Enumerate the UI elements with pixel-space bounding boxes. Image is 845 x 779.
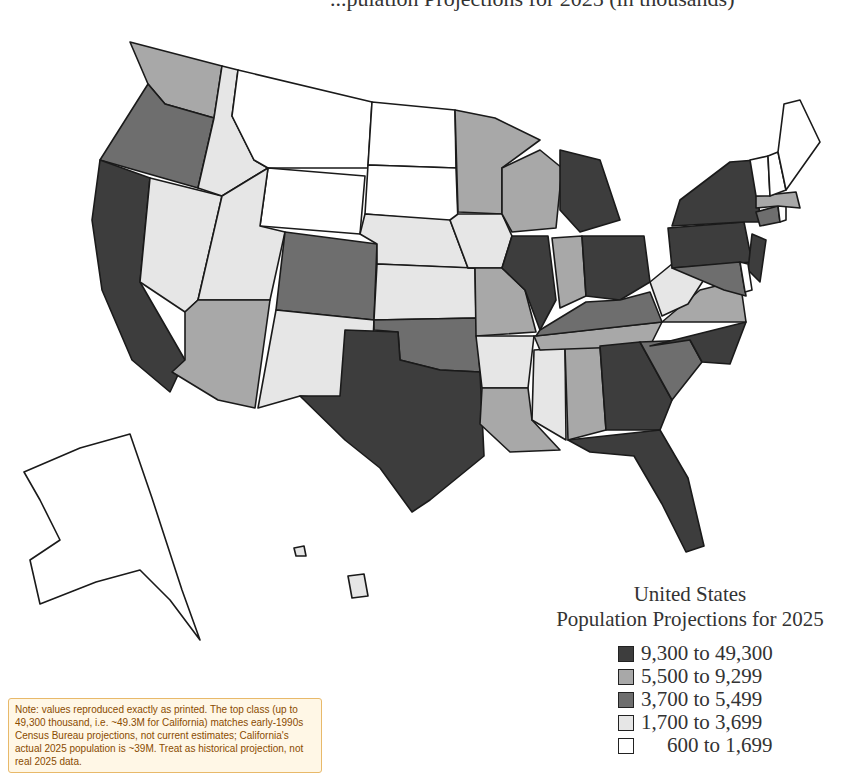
state-me (778, 100, 820, 190)
legend-item: 5,500 to 9,299 (618, 665, 840, 688)
state-nd (368, 102, 456, 168)
state-wy (260, 168, 365, 234)
state-mi (560, 150, 620, 232)
state-pa (668, 222, 752, 268)
state-ks (374, 264, 476, 320)
state-al (565, 346, 606, 440)
legend-swatch (618, 715, 634, 731)
legend-title-line1: United States (540, 582, 840, 607)
legend-label: 5,500 to 9,299 (641, 665, 762, 688)
state-co (276, 232, 377, 320)
legend-swatch (618, 669, 634, 685)
west-region (92, 42, 377, 408)
state-mt (232, 70, 372, 168)
state-nj (748, 234, 766, 282)
map-legend: United States Population Projections for… (540, 582, 840, 757)
legend-label: 600 to 1,699 (641, 734, 773, 757)
legend-item: 600 to 1,699 (618, 734, 840, 757)
state-fl (568, 430, 704, 552)
state-sd (365, 165, 458, 222)
legend-swatch (618, 692, 634, 708)
legend-item: 1,700 to 3,699 (618, 711, 840, 734)
state-hi-main (348, 574, 368, 598)
northeast-region (668, 100, 820, 296)
legend-items: 9,300 to 49,300 5,500 to 9,299 3,700 to … (618, 642, 840, 757)
state-ak (24, 434, 200, 640)
state-hi (294, 546, 306, 556)
legend-item: 9,300 to 49,300 (618, 642, 840, 665)
state-ar (476, 336, 534, 388)
state-ny (672, 160, 760, 226)
legend-item: 3,700 to 5,499 (618, 688, 840, 711)
legend-label: 3,700 to 5,499 (641, 688, 762, 711)
state-az (172, 300, 270, 408)
noncontiguous-region (24, 434, 368, 640)
legend-label: 9,300 to 49,300 (641, 642, 773, 665)
data-accuracy-note: Note: values reproduced exactly as print… (8, 698, 322, 773)
legend-swatch (618, 738, 634, 754)
state-in (552, 236, 586, 308)
state-oh (582, 236, 650, 300)
legend-title-line2: Population Projections for 2025 (540, 607, 840, 632)
state-ri (778, 206, 786, 222)
legend-label: 1,700 to 3,699 (641, 711, 762, 734)
legend-swatch (618, 646, 634, 662)
